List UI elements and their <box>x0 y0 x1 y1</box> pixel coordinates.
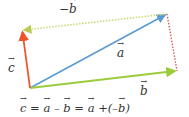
formula-eq1: = <box>26 101 43 115</box>
formula-close: ) <box>125 101 130 115</box>
vector-c-arrow <box>23 32 31 88</box>
formula-a2: a <box>88 101 95 115</box>
formula-c: c <box>20 101 26 115</box>
formula-a1: a <box>43 101 50 115</box>
formula-minus: – <box>50 101 63 115</box>
formula: c = a – b = a +(–b) <box>20 101 130 115</box>
label-neg-b-letter: b <box>69 3 77 15</box>
label-neg-b-minus: − <box>59 2 69 16</box>
label-neg-b: −b <box>59 3 77 15</box>
formula-b1: b <box>63 101 70 115</box>
formula-b2: b <box>118 101 125 115</box>
label-c-letter: c <box>8 62 15 74</box>
label-b-letter: b <box>140 85 148 97</box>
label-a-letter: a <box>117 47 124 59</box>
vector-b-arrow <box>30 71 175 88</box>
vector-b-shifted-dotted <box>167 14 177 71</box>
vector-neg-b-arrow <box>24 14 167 30</box>
label-a: a <box>117 47 124 59</box>
label-c: c <box>8 62 15 74</box>
vector-subtraction-diagram: −b a c b c = a – b = a +(–b) <box>0 0 189 117</box>
formula-eq2: = <box>71 101 88 115</box>
label-b: b <box>140 85 148 97</box>
formula-plus: +(– <box>95 101 119 115</box>
